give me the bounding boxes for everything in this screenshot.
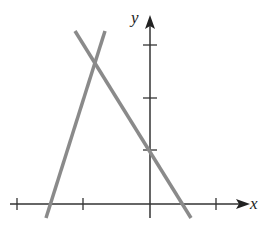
- y-axis-label: y: [129, 8, 139, 27]
- line-increasing: [46, 31, 105, 218]
- line-decreasing: [75, 31, 191, 218]
- chart-canvas: x y: [0, 0, 263, 243]
- x-axis-label: x: [249, 194, 258, 213]
